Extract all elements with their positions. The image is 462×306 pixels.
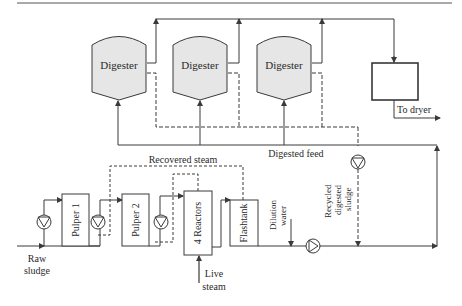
to-dryer-label: To dryer [397, 104, 432, 115]
pump-2 [89, 200, 122, 246]
flashtank-label: Flashtank [238, 204, 249, 243]
digested-feed-label: Digested feed [268, 148, 323, 159]
reactors-label: 4 Reactors [192, 202, 203, 245]
recycled-label-1: Recycled [323, 184, 333, 218]
pulper-1-label: Pulper 1 [70, 203, 81, 237]
recycle-pump [351, 155, 365, 169]
feed-pump [306, 239, 320, 253]
recycled-label-3: sludge [343, 187, 353, 211]
live-steam-label-2: steam [202, 281, 226, 292]
dilution-label-1: Dilution [268, 199, 278, 230]
pulper-2-label: Pulper 2 [130, 203, 141, 237]
digester-2-label: Digester [181, 59, 219, 71]
digester-1: Digester [92, 37, 146, 101]
process-flow-diagram: To dryer Digester Digester Digester Dige… [0, 0, 462, 306]
digester-3: Digester [257, 37, 311, 101]
reactor-to-flashtank [212, 200, 230, 247]
digester-2: Digester [173, 37, 227, 101]
recovered-steam-label: Recovered steam [149, 154, 218, 165]
storage-tank [372, 63, 418, 100]
raw-sludge-label-2: sludge [24, 265, 51, 276]
recycled-label-2: digested [333, 185, 343, 215]
pump-1 [37, 200, 62, 246]
live-steam-label-1: Live [205, 268, 224, 279]
dilution-label-2: water [278, 206, 288, 226]
digester-1-label: Digester [100, 59, 138, 71]
pump-3 [149, 196, 183, 246]
digester-3-label: Digester [265, 59, 303, 71]
raw-sludge-label-1: Raw [28, 253, 47, 264]
